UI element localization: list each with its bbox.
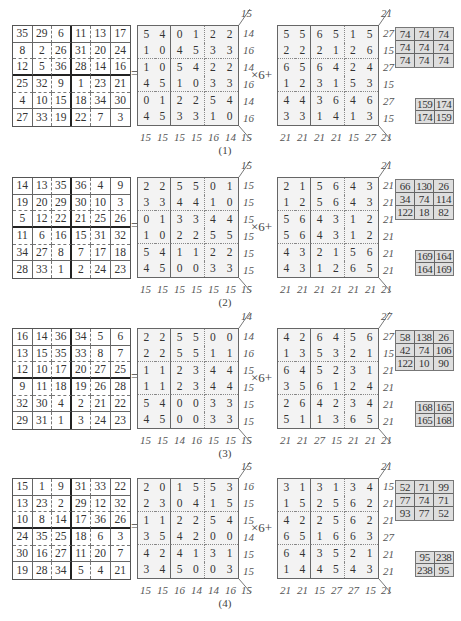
block-sum-box-3x3: 581382642741061221090 [395,330,454,371]
grid-cell: 5 [155,529,172,546]
grid-cell: 5 [155,412,172,429]
grid-cell: 4 [345,562,362,579]
grid-cell: 6 [361,43,378,60]
grid-cell: 2 [205,59,222,76]
grid-cell: 27 [52,546,72,563]
grid-cell: 3 [188,362,205,379]
grid-cell: 5 [205,228,222,245]
grid-cell: 6 [345,529,362,546]
sum-value: 21 [328,131,345,144]
grid-cell: 1 [205,346,222,363]
grid-cell: 3 [138,195,155,212]
grid-cell: 2 [138,178,155,195]
grid-cell: 0 [138,211,155,228]
sum-value: 21 [383,562,399,579]
grid-cell: 0 [205,178,222,195]
grid-cell: 6 [91,529,111,546]
sum-value: 14 [188,584,205,597]
grid-cell: 23 [111,412,131,429]
grid-cell: 74 [434,41,453,54]
sum-value: 16 [188,434,205,447]
sum-value: 15 [243,395,259,412]
grid-cell: 4 [295,92,312,109]
grid-cell: 15 [13,479,33,496]
sum-value: 15 [154,131,171,144]
grid-cell: 1 [345,26,362,43]
magic-square-panel-3: 1614363456131535338712101720272591118192… [0,303,461,455]
grid-cell: 25 [52,529,72,546]
grid-cell: 11 [72,26,92,43]
grid-cell: 2 [171,92,188,109]
grid-cell: 4 [171,529,188,546]
grid-cell: 18 [415,206,434,219]
grid-cell: 31 [72,43,92,60]
grid-cell: 2 [52,496,72,513]
grid-cell: 52 [434,507,453,520]
grid-cell: 7 [91,109,111,126]
grid-cell: 1 [138,362,155,379]
grid-cell: 5 [155,261,172,278]
grid-cell: 3 [155,496,172,513]
grid-cell: 71 [415,481,434,494]
sum-value: 21 [294,283,311,296]
grid-cell: 0 [171,395,188,412]
grid-cell: 5 [171,178,188,195]
grid-cell: 17 [72,512,92,529]
grid-cell: 10 [33,93,53,110]
grid-cell: 5 [311,362,328,379]
grid-cell: 4 [91,178,111,195]
sum-value: 15 [154,283,171,296]
grid-cell: 4 [221,512,238,529]
sum-value: 15 [171,283,188,296]
grid-cell: 29 [33,26,53,43]
grid-cell: 27 [91,362,111,379]
grid-cell: 5 [188,43,205,60]
grid-cell: 16 [111,59,131,76]
grid-cell: 74 [396,28,415,41]
grid-cell: 2 [171,228,188,245]
grid-cell: 29 [52,195,72,212]
grid-cell: 2 [345,379,362,396]
grid-cell: 17 [91,245,111,262]
sum-value: 15 [243,562,259,579]
grid-cell: 5 [91,329,111,346]
grid-cell: 2 [361,211,378,228]
grid-cell: 168 [435,414,454,426]
sum-value: 21 [345,283,362,296]
grid-cell: 164 [435,251,454,263]
grid-cell: 3 [345,395,362,412]
grid-cell: 20 [91,546,111,563]
grid-cell: 1 [278,562,295,579]
grid-cell: 6 [52,26,72,43]
remainder-square: 215643125643564312564312432156431265 [277,177,379,278]
grid-cell: 8 [33,512,53,529]
grid-cell: 4 [155,26,172,43]
grid-cell: 4 [171,43,188,60]
sum-value: 21 [383,261,399,278]
grid-cell: 3 [221,395,238,412]
grid-cell: 5 [345,244,362,261]
grid-cell: 36 [52,59,72,76]
sum-value: 21 [277,434,294,447]
grid-cell: 174 [435,99,454,111]
times-six-plus-operator: ×6+ [251,219,272,235]
remainder-diagonal-sum-bottom: 21 [381,283,392,295]
sum-value: 21 [383,378,399,395]
grid-cell: 168 [416,402,435,414]
grid-cell: 36 [91,512,111,529]
grid-cell: 12 [33,211,53,228]
grid-cell: 0 [221,529,238,546]
grid-cell: 21 [111,76,131,93]
grid-cell: 5 [328,496,345,513]
grid-cell: 6 [311,26,328,43]
grid-cell: 1 [311,529,328,546]
grid-cell: 82 [434,206,453,219]
grid-cell: 0 [155,228,172,245]
grid-cell: 2 [311,496,328,513]
grid-cell: 28 [33,562,53,579]
grid-cell: 6 [278,545,295,562]
grid-cell: 1 [361,545,378,562]
grid-cell: 2 [361,228,378,245]
grid-cell: 2 [188,228,205,245]
grid-cell: 9 [111,178,131,195]
